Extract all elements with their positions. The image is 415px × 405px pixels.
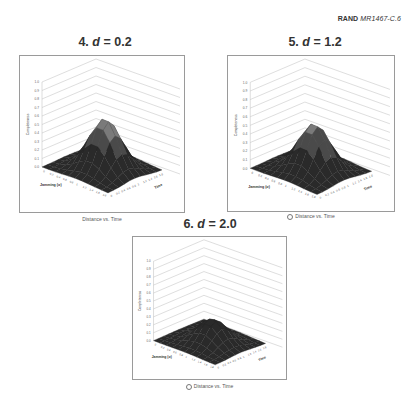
svg-text:1.6: 1.6 — [203, 362, 208, 367]
svg-text:0.2: 0.2 — [147, 323, 151, 327]
svg-text:0.7: 0.7 — [243, 106, 248, 110]
svg-text:0.8: 0.8 — [278, 181, 283, 186]
svg-text:0.2: 0.2 — [115, 190, 121, 195]
svg-text:0.6: 0.6 — [243, 115, 248, 119]
surface-plot: 0.00.10.20.30.40.50.60.70.80.91.0Complet… — [133, 237, 288, 381]
svg-text:0: 0 — [217, 365, 220, 369]
svg-text:Completeness: Completeness — [138, 290, 142, 311]
surface-plot: 0.00.10.20.30.40.50.60.70.80.91.0Complet… — [228, 56, 396, 213]
svg-text:0.5: 0.5 — [147, 299, 151, 303]
svg-text:0.2: 0.2 — [324, 192, 330, 197]
svg-text:1.2: 1.2 — [142, 179, 148, 184]
svg-text:0.0: 0.0 — [35, 165, 40, 169]
svg-text:0.2: 0.2 — [49, 172, 54, 177]
svg-text:0: 0 — [154, 342, 157, 346]
svg-text:1.6: 1.6 — [363, 176, 369, 181]
svg-text:0: 0 — [110, 193, 113, 197]
svg-text:0.5: 0.5 — [243, 124, 248, 128]
svg-text:0.6: 0.6 — [173, 350, 178, 355]
chart-caption: Distance vs. Time — [132, 383, 287, 390]
svg-text:0: 0 — [251, 171, 254, 175]
svg-text:Time: Time — [258, 355, 267, 362]
svg-text:1.4: 1.4 — [148, 176, 154, 181]
svg-text:1.8: 1.8 — [158, 172, 164, 177]
svg-text:1.2: 1.2 — [191, 357, 196, 362]
svg-text:1: 1 — [242, 354, 245, 358]
svg-text:0.0: 0.0 — [243, 167, 248, 171]
svg-text:1.8: 1.8 — [368, 173, 374, 178]
svg-text:0: 0 — [319, 195, 322, 199]
svg-text:Time: Time — [363, 184, 372, 191]
org-label: RAND — [338, 15, 359, 22]
svg-text:0.8: 0.8 — [131, 183, 137, 188]
svg-text:1.8: 1.8 — [210, 364, 215, 369]
svg-text:1.8: 1.8 — [102, 193, 107, 198]
svg-text:1.0: 1.0 — [243, 81, 248, 85]
svg-text:0.6: 0.6 — [35, 114, 40, 118]
svg-text:0.6: 0.6 — [62, 177, 67, 182]
chart-title: 5. d = 1.2 — [250, 35, 380, 49]
svg-text:Jamming (σ): Jamming (σ) — [40, 183, 62, 187]
svg-text:1: 1 — [284, 184, 287, 188]
svg-text:1.0: 1.0 — [147, 259, 151, 263]
svg-text:0.4: 0.4 — [243, 132, 248, 136]
svg-text:0.2: 0.2 — [35, 148, 40, 152]
svg-text:0.9: 0.9 — [35, 89, 40, 93]
svg-text:1.4: 1.4 — [298, 189, 303, 194]
svg-text:0.4: 0.4 — [56, 174, 61, 179]
svg-text:0.9: 0.9 — [147, 267, 151, 271]
svg-text:0.4: 0.4 — [166, 347, 171, 352]
svg-text:0.1: 0.1 — [147, 331, 151, 335]
svg-text:1: 1 — [185, 355, 188, 359]
svg-text:0.5: 0.5 — [35, 123, 40, 127]
document-id: RAND MR1467-C.6 — [338, 15, 401, 22]
chart-title: 6. d = 2.0 — [145, 217, 275, 231]
legend-marker-icon — [186, 384, 192, 390]
svg-text:0.6: 0.6 — [126, 186, 132, 191]
svg-text:1.6: 1.6 — [153, 174, 159, 179]
svg-text:1.4: 1.4 — [89, 187, 94, 192]
svg-text:0.8: 0.8 — [147, 275, 151, 279]
svg-text:1: 1 — [137, 182, 140, 186]
svg-text:0.3: 0.3 — [243, 141, 248, 145]
chart-frame: 0.00.10.20.30.40.50.60.70.80.91.0Complet… — [227, 55, 395, 212]
svg-text:1.6: 1.6 — [304, 192, 309, 197]
svg-text:0.9: 0.9 — [243, 89, 248, 93]
svg-text:Completeness: Completeness — [26, 113, 30, 135]
svg-text:0.4: 0.4 — [330, 190, 336, 195]
svg-text:Completeness: Completeness — [234, 114, 238, 136]
svg-text:0.6: 0.6 — [271, 178, 276, 183]
svg-text:1.4: 1.4 — [197, 359, 202, 364]
svg-text:1.2: 1.2 — [291, 186, 296, 191]
svg-text:Time: Time — [154, 183, 163, 190]
svg-text:1.6: 1.6 — [95, 190, 100, 195]
svg-text:0.3: 0.3 — [147, 315, 151, 319]
chart-frame: 0.00.10.20.30.40.50.60.70.80.91.0Complet… — [132, 236, 287, 380]
svg-text:0.4: 0.4 — [121, 188, 127, 193]
svg-text:0.8: 0.8 — [35, 97, 40, 101]
svg-text:1: 1 — [76, 182, 79, 186]
svg-text:0.1: 0.1 — [35, 157, 40, 161]
svg-text:0.4: 0.4 — [35, 131, 40, 135]
svg-text:0.8: 0.8 — [243, 98, 248, 102]
chart-title: 4. d = 0.2 — [40, 35, 170, 49]
svg-text:0.4: 0.4 — [264, 176, 269, 181]
svg-text:1: 1 — [346, 184, 349, 188]
svg-text:0.8: 0.8 — [179, 352, 184, 357]
svg-text:Jamming (σ): Jamming (σ) — [152, 355, 172, 359]
svg-text:1.0: 1.0 — [35, 80, 40, 84]
svg-text:1.2: 1.2 — [352, 180, 358, 185]
svg-text:1.4: 1.4 — [357, 178, 363, 183]
svg-text:0.1: 0.1 — [243, 158, 248, 162]
svg-text:0.2: 0.2 — [160, 345, 165, 350]
svg-text:0.4: 0.4 — [147, 307, 151, 311]
svg-text:0.8: 0.8 — [341, 185, 347, 190]
doc-id-label: MR1467-C.6 — [360, 15, 401, 22]
surface-plot: 0.00.10.20.30.40.50.60.70.80.91.0Complet… — [20, 56, 186, 214]
svg-text:0.2: 0.2 — [258, 173, 263, 178]
svg-text:0.2: 0.2 — [243, 149, 248, 153]
svg-text:1.8: 1.8 — [262, 345, 267, 350]
svg-text:0.8: 0.8 — [69, 180, 74, 185]
svg-text:0.7: 0.7 — [35, 106, 40, 110]
svg-text:0.6: 0.6 — [335, 187, 341, 192]
